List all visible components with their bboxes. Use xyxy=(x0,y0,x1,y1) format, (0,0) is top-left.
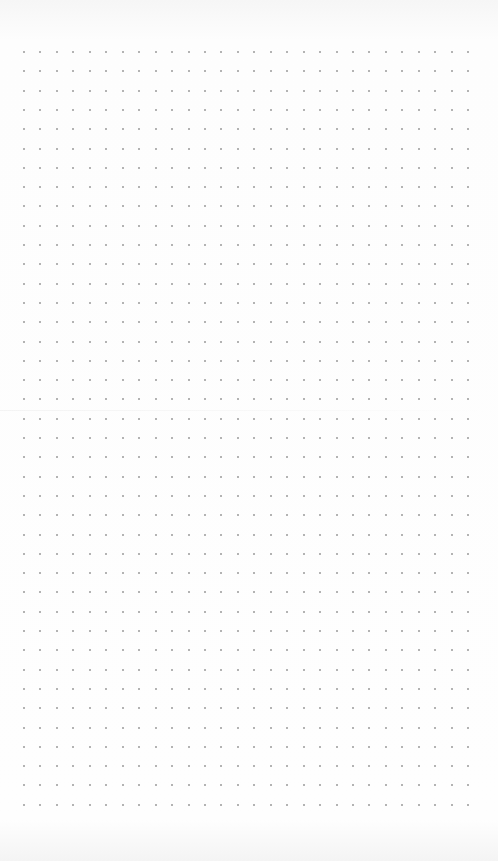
grid-dot xyxy=(138,379,140,381)
grid-dot xyxy=(401,283,403,285)
grid-dot xyxy=(188,244,190,246)
grid-dot xyxy=(89,784,91,786)
grid-dot xyxy=(122,727,124,729)
grid-dot xyxy=(89,302,91,304)
grid-dot xyxy=(253,476,255,478)
grid-dot xyxy=(72,707,74,709)
grid-dot xyxy=(39,186,41,188)
grid-dot xyxy=(237,514,239,516)
grid-dot xyxy=(451,476,453,478)
grid-dot xyxy=(188,476,190,478)
grid-dot xyxy=(303,591,305,593)
grid-dot xyxy=(451,765,453,767)
grid-dot xyxy=(368,148,370,150)
grid-dot xyxy=(188,379,190,381)
grid-dot xyxy=(253,205,255,207)
grid-dot xyxy=(286,109,288,111)
grid-dot xyxy=(171,688,173,690)
grid-dot xyxy=(237,341,239,343)
grid-dot xyxy=(253,225,255,227)
grid-dot xyxy=(434,630,436,632)
grid-dot xyxy=(319,128,321,130)
grid-dot xyxy=(401,727,403,729)
grid-dot xyxy=(303,418,305,420)
grid-dot xyxy=(39,205,41,207)
grid-dot xyxy=(39,765,41,767)
grid-dot xyxy=(220,765,222,767)
grid-dot xyxy=(434,283,436,285)
grid-dot xyxy=(72,205,74,207)
grid-dot xyxy=(23,225,25,227)
grid-dot xyxy=(401,148,403,150)
grid-dot xyxy=(286,302,288,304)
grid-dot xyxy=(39,379,41,381)
grid-dot xyxy=(303,784,305,786)
grid-dot xyxy=(418,572,420,574)
grid-dot xyxy=(319,225,321,227)
grid-dot xyxy=(451,437,453,439)
grid-dot xyxy=(188,495,190,497)
grid-dot xyxy=(418,205,420,207)
grid-dot xyxy=(451,341,453,343)
grid-dot xyxy=(352,630,354,632)
grid-dot xyxy=(336,109,338,111)
grid-dot xyxy=(56,476,58,478)
grid-dot xyxy=(385,534,387,536)
grid-dot xyxy=(155,688,157,690)
grid-dot xyxy=(237,688,239,690)
grid-dot xyxy=(23,611,25,613)
grid-dot xyxy=(155,321,157,323)
grid-dot xyxy=(72,572,74,574)
grid-dot xyxy=(56,534,58,536)
grid-dot xyxy=(23,669,25,671)
grid-dot xyxy=(237,263,239,265)
grid-dot xyxy=(336,669,338,671)
grid-dot xyxy=(286,669,288,671)
grid-dot xyxy=(401,707,403,709)
grid-dot xyxy=(401,611,403,613)
grid-dot xyxy=(155,51,157,53)
grid-dot xyxy=(56,688,58,690)
grid-dot xyxy=(204,148,206,150)
grid-dot xyxy=(319,514,321,516)
grid-dot xyxy=(138,128,140,130)
grid-dot xyxy=(237,534,239,536)
grid-dot xyxy=(188,167,190,169)
grid-dot xyxy=(204,630,206,632)
grid-dot xyxy=(89,205,91,207)
grid-dot xyxy=(270,437,272,439)
grid-dot xyxy=(303,495,305,497)
grid-dot xyxy=(171,225,173,227)
grid-dot xyxy=(253,186,255,188)
grid-dot xyxy=(56,51,58,53)
grid-dot xyxy=(204,418,206,420)
grid-dot xyxy=(188,591,190,593)
grid-dot xyxy=(401,534,403,536)
grid-dot xyxy=(336,514,338,516)
grid-dot xyxy=(39,398,41,400)
grid-dot xyxy=(368,321,370,323)
grid-dot xyxy=(336,205,338,207)
grid-dot xyxy=(303,379,305,381)
grid-dot xyxy=(336,727,338,729)
grid-dot xyxy=(89,225,91,227)
grid-dot xyxy=(23,534,25,536)
grid-dot xyxy=(401,572,403,574)
grid-dot xyxy=(385,109,387,111)
grid-dot xyxy=(352,321,354,323)
grid-dot xyxy=(253,765,255,767)
grid-dot xyxy=(319,418,321,420)
grid-dot xyxy=(122,649,124,651)
grid-dot xyxy=(368,186,370,188)
grid-dot xyxy=(237,437,239,439)
grid-dot xyxy=(467,630,469,632)
grid-dot xyxy=(451,418,453,420)
grid-dot xyxy=(56,321,58,323)
grid-dot xyxy=(155,649,157,651)
grid-dot xyxy=(72,167,74,169)
grid-dot xyxy=(270,186,272,188)
grid-dot xyxy=(105,591,107,593)
grid-dot xyxy=(286,456,288,458)
grid-dot xyxy=(220,514,222,516)
grid-dot xyxy=(270,302,272,304)
